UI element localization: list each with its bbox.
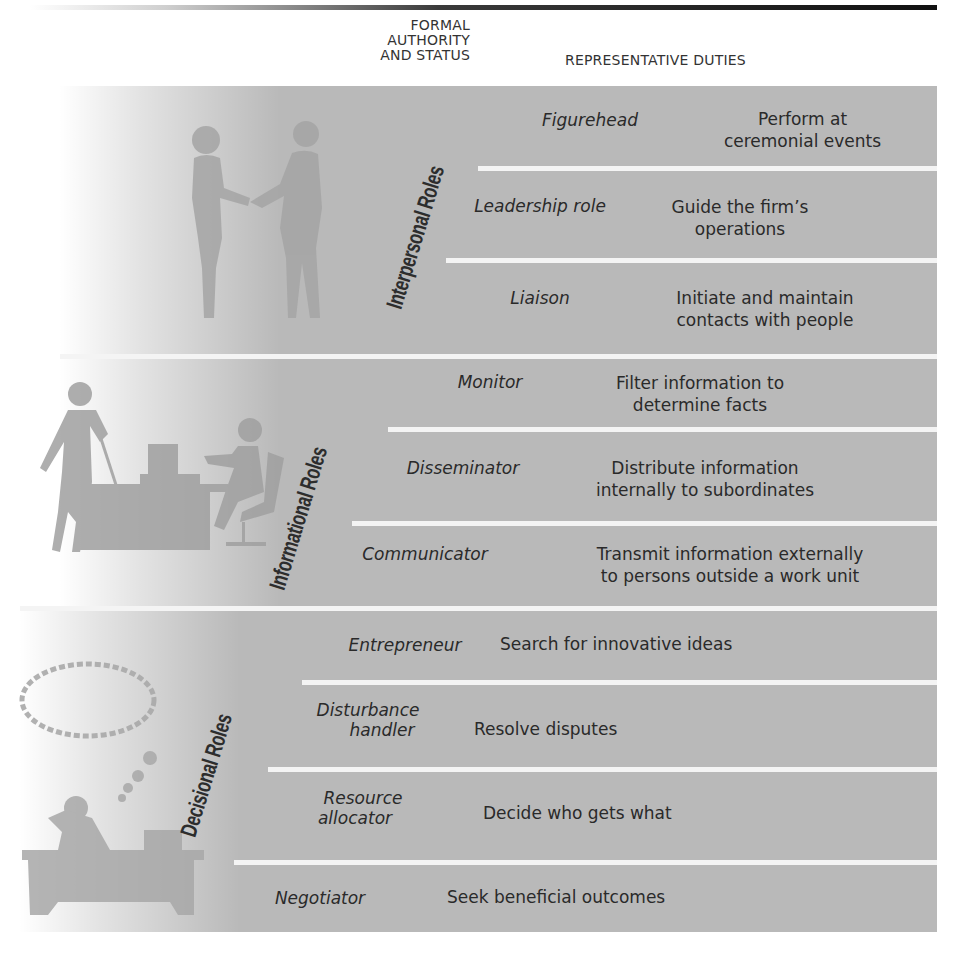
duty-disseminator: Distribute information internally to sub… (560, 457, 850, 501)
duty-monitor: Filter information to determine facts (575, 372, 825, 416)
handshake-figures-icon (180, 118, 330, 323)
duty-leadership: Guide the firm’s operations (625, 196, 855, 240)
top-rule (30, 5, 937, 10)
role-negotiator: Negotiator (255, 888, 385, 908)
duty-resource-allocator: Decide who gets what (483, 802, 743, 824)
duty-line: Transmit information externally (555, 543, 905, 565)
role-line: Resource (311, 788, 415, 808)
header-representative-duties: REPRESENTATIVE DUTIES (565, 53, 746, 68)
duty-line: Initiate and maintain (640, 287, 890, 309)
role-leadership: Leadership role (450, 196, 630, 216)
role-monitor: Monitor (435, 372, 545, 392)
header-line: FORMAL (345, 18, 470, 33)
duty-line: internally to subordinates (560, 479, 850, 501)
row-separator (388, 427, 937, 432)
role-liaison: Liaison (480, 288, 600, 308)
duty-negotiator: Seek beneficial outcomes (447, 886, 747, 908)
duty-line: Guide the firm’s (625, 196, 855, 218)
role-resource-allocator: Resource allocator (295, 788, 415, 828)
row-separator (302, 680, 937, 685)
role-communicator: Communicator (340, 544, 510, 564)
row-separator (268, 767, 937, 772)
duty-line: to persons outside a work unit (555, 565, 905, 587)
row-separator (446, 258, 937, 263)
duty-figurehead: Perform at ceremonial events (695, 108, 910, 152)
duty-line: operations (625, 218, 855, 240)
role-disseminator: Disseminator (388, 458, 538, 478)
header-line: AUTHORITY (345, 33, 470, 48)
duty-line: Seek beneficial outcomes (447, 886, 747, 908)
header-line: AND STATUS (345, 48, 470, 63)
duty-communicator: Transmit information externally to perso… (555, 543, 905, 587)
duty-entrepreneur: Search for innovative ideas (500, 633, 820, 655)
office-monitoring-figures-icon (28, 382, 288, 562)
duty-line: Perform at (695, 108, 910, 130)
section-divider (60, 354, 937, 359)
row-separator (352, 521, 937, 526)
duty-line: Distribute information (560, 457, 850, 479)
duty-line: ceremonial events (695, 130, 910, 152)
role-entrepreneur: Entrepreneur (330, 635, 480, 655)
duty-line: determine facts (575, 394, 825, 416)
row-separator (478, 166, 937, 171)
section-divider (20, 606, 937, 611)
duty-line: Decide who gets what (483, 802, 743, 824)
duty-line: contacts with people (640, 309, 890, 331)
duty-line: Resolve disputes (474, 718, 714, 740)
duty-disturbance-handler: Decide who gets what Resolve disputes (474, 718, 714, 740)
duty-liaison: Initiate and maintain contacts with peop… (640, 287, 890, 331)
duty-line: Search for innovative ideas (500, 633, 820, 655)
role-disturbance-handler: Disturbance handler (300, 700, 450, 740)
role-figurehead: Figurehead (520, 110, 660, 130)
role-line: Disturbance (286, 700, 450, 720)
thinking-person-at-desk-icon (18, 650, 208, 935)
row-separator (234, 860, 937, 865)
role-line: handler (314, 720, 450, 740)
duty-line: Filter information to (575, 372, 825, 394)
role-line: allocator (295, 808, 415, 828)
header-formal-authority: FORMAL AUTHORITY AND STATUS (345, 18, 470, 63)
